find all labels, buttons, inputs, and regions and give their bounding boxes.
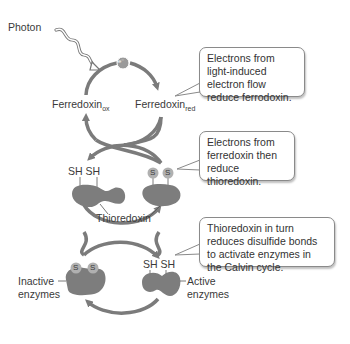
- enzyme-sulfur-right: S: [90, 264, 95, 272]
- sulfur-label-left: S: [150, 169, 155, 177]
- inactive-enzyme-shape: [66, 263, 106, 296]
- sulfur-label-right: S: [165, 169, 170, 177]
- thioredoxin-sh-label: SH SH: [68, 166, 100, 177]
- photon-label: Photon: [8, 22, 41, 33]
- callout-thioredoxin: Electrons from ferredoxin then reduce th…: [199, 131, 295, 181]
- inactive-enzymes-label: Inactiveenzymes: [18, 276, 60, 299]
- callout-ferredoxin: Electrons from light-induced electron fl…: [199, 47, 305, 97]
- photon-arrow-icon: [56, 29, 100, 70]
- active-enzymes-label: Activeenzymes: [187, 276, 229, 299]
- thioredoxin-label: Thioredoxin: [96, 213, 151, 224]
- enzyme-sh-label: SH SH: [143, 259, 175, 270]
- electron-label: e⁻: [118, 58, 124, 64]
- thioredoxin-oxidized-shape: [142, 168, 180, 207]
- ferredoxin-red-label: Ferredoxinred: [135, 99, 195, 112]
- active-enzyme-shape: [142, 270, 180, 296]
- thioredoxin-reduced-shape: [72, 177, 125, 207]
- ferredoxin-ox-label: Ferredoxinox: [52, 99, 110, 112]
- callout-enzymes: Thioredoxin in turn reduces disulfide bo…: [199, 217, 335, 267]
- enzyme-sulfur-left: S: [73, 264, 78, 272]
